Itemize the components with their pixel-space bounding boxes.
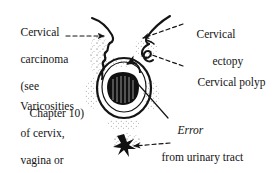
label-cervical-carcinoma-line1: Cervical <box>21 26 60 38</box>
leader-cervical-ectopy <box>143 24 183 38</box>
label-varicosities-line3: vagina or <box>21 154 64 166</box>
label-cervical-ectopy-line1: Cervical <box>197 28 236 40</box>
label-varicosities: Varicosities of cervix, vagina or vulva <box>9 86 74 173</box>
label-error-line2: from urinary tract <box>162 151 244 163</box>
label-error-line1: Error <box>162 124 204 138</box>
label-varicosities-line2: of cervix, <box>21 127 65 139</box>
figure-canvas: Cervical carcinoma (see Chapter 10) Vari… <box>0 0 274 173</box>
label-cervical-polyp: Cervical polyp <box>186 62 266 103</box>
label-cervical-carcinoma-line2: carcinoma <box>21 53 69 65</box>
leader-cervical-polyp <box>152 55 183 66</box>
label-varicosities-line1: Varicosities <box>20 100 74 112</box>
label-error: Error from urinary tract or haemorrhoids <box>150 110 243 173</box>
label-cervical-polyp-line1: Cervical polyp <box>198 76 266 88</box>
ectopy-patch <box>107 72 139 105</box>
